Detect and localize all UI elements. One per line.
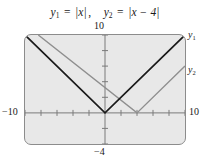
- x-axis-min-label: −10: [2, 106, 18, 117]
- caption-separator: ,: [87, 6, 93, 18]
- caption-equals-1: =: [62, 6, 72, 18]
- caption-equals-2: =: [116, 6, 126, 18]
- caption-y1-subscript: 1: [56, 11, 60, 20]
- series-line-y2: [38, 35, 185, 113]
- x-axis-max-label: 10: [189, 106, 199, 117]
- caption-y2-subscript: 2: [109, 11, 113, 20]
- y-axis-max-label: 10: [94, 20, 104, 31]
- series-label-y1-subscript: 1: [192, 34, 195, 41]
- series-label-y2: y2: [188, 64, 196, 78]
- plot-frame: [24, 34, 186, 145]
- equation-caption: y1 = |x|, y2 = |x − 4|: [0, 5, 210, 23]
- graph-figure: y1 = |x|, y2 = |x − 4|: [0, 0, 210, 164]
- y-axis-min-label: −4: [94, 146, 105, 157]
- caption-y1-expression: |x|: [75, 6, 87, 18]
- caption-y2-expression: |x − 4|: [128, 6, 159, 18]
- series-label-y2-subscript: 2: [192, 69, 195, 76]
- series-label-y1: y1: [188, 29, 196, 43]
- plot-canvas: [25, 35, 185, 144]
